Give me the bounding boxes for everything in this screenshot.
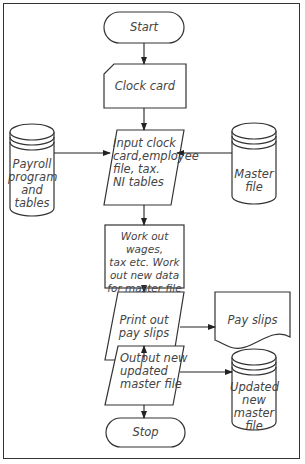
print-label-line: pay slips: [108, 327, 180, 340]
process-label-line: Work out wages,: [103, 230, 186, 256]
payroll-label-line: tables: [8, 197, 56, 210]
stop-label: Stop: [106, 426, 185, 439]
clock-card-label: Clock card: [104, 80, 186, 93]
process-label-line: out new data: [103, 269, 186, 282]
input-label-line: NI tables: [113, 176, 188, 189]
payroll-label: Payroll program and tables: [8, 158, 56, 210]
updated-label-line: file: [230, 420, 278, 433]
process-label-line: for master file: [103, 282, 186, 295]
output-label-line: master file: [120, 378, 190, 391]
master-label-line: file: [230, 181, 278, 194]
print-label: Print out pay slips: [108, 314, 180, 340]
process-label-line: tax etc. Work: [103, 256, 186, 269]
master-label: Master file: [230, 168, 278, 194]
payslips-label: Pay slips: [215, 314, 290, 327]
start-label: Start: [104, 21, 184, 34]
input-label: Input clock card,employee file, tax. NI …: [113, 137, 188, 189]
updated-label: Updated new master file: [230, 381, 278, 433]
output-label: Output new updated master file: [120, 352, 190, 391]
process-label: Work out wages, tax etc. Work out new da…: [103, 230, 186, 295]
